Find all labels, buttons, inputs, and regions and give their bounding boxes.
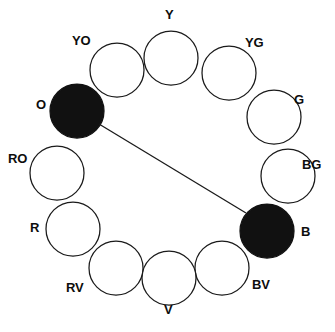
- connector-group: [99, 124, 246, 213]
- hue-circle-yg[interactable]: [202, 46, 256, 100]
- hue-label-bv: BV: [252, 278, 270, 291]
- hue-label-r: R: [30, 221, 39, 234]
- color-wheel-diagram: YYGGBGBBVVRVRROOYO: [0, 0, 335, 332]
- hue-label-ro: RO: [8, 152, 27, 165]
- hue-circle-ro[interactable]: [30, 146, 84, 200]
- hue-label-bg: BG: [302, 158, 321, 171]
- hue-label-yg: YG: [245, 36, 263, 49]
- hue-label-rv: RV: [66, 281, 83, 294]
- hue-label-v: V: [164, 303, 172, 316]
- hue-label-b: B: [301, 225, 310, 238]
- hue-circle-yo[interactable]: [90, 43, 144, 97]
- hue-label-o: O: [36, 98, 46, 111]
- hue-label-y: Y: [165, 8, 173, 21]
- hue-circle-bv[interactable]: [195, 241, 249, 295]
- hue-circle-y[interactable]: [144, 31, 198, 85]
- complement-connector: [99, 124, 246, 213]
- hue-circle-r[interactable]: [46, 202, 100, 256]
- hue-circle-v[interactable]: [142, 251, 196, 305]
- hue-circle-b[interactable]: [240, 204, 294, 258]
- color-wheel-canvas: [0, 0, 335, 332]
- hue-circle-g[interactable]: [247, 90, 301, 144]
- hue-label-yo: YO: [72, 34, 90, 47]
- hue-label-g: G: [294, 93, 304, 106]
- hue-circle-o[interactable]: [50, 84, 104, 138]
- hue-circle-rv[interactable]: [89, 241, 143, 295]
